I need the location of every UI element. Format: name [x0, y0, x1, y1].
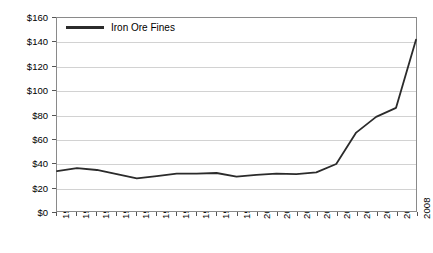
data-series-layer: [57, 18, 416, 211]
y-axis-tick-label: $100: [27, 85, 48, 96]
y-axis-tick-label: $20: [32, 182, 48, 193]
x-axis-tick-mark: [357, 212, 358, 216]
y-axis-tick-label: $0: [37, 207, 48, 218]
y-axis-tick-label: $40: [32, 158, 48, 169]
x-axis-tick-mark: [377, 212, 378, 216]
y-axis-tick-label: $140: [27, 36, 48, 47]
series-line-iron-ore-fines: [57, 40, 416, 179]
x-axis-tick-mark: [216, 212, 217, 216]
legend-swatch-iron-ore-fines: [66, 26, 104, 29]
chart-legend: Iron Ore Fines: [66, 22, 175, 33]
x-axis-tick-mark: [417, 212, 418, 216]
x-axis-tick-mark: [176, 212, 177, 216]
y-axis-tick-label: $160: [27, 12, 48, 23]
plot-area: [56, 17, 417, 212]
x-axis-tick-mark: [56, 212, 57, 216]
iron-ore-fines-line-chart: US $/Metric Ton $0$20$40$60$80$100$120$1…: [0, 0, 433, 253]
x-axis-tick-mark: [257, 212, 258, 216]
x-axis-tick-mark: [237, 212, 238, 216]
y-axis-tick-label: $80: [32, 109, 48, 120]
x-axis-tick-mark: [297, 212, 298, 216]
x-axis-tick-mark: [196, 212, 197, 216]
legend-label-iron-ore-fines: Iron Ore Fines: [111, 22, 175, 33]
x-axis-tick-mark: [337, 212, 338, 216]
x-axis-tick-mark: [116, 212, 117, 216]
x-axis-tick-mark: [156, 212, 157, 216]
x-axis-tick-mark: [76, 212, 77, 216]
x-axis-tick-mark: [136, 212, 137, 216]
x-axis-tick-mark: [397, 212, 398, 216]
x-axis-tick-label: 2008: [421, 197, 432, 219]
y-axis-tick-label: $120: [27, 60, 48, 71]
x-axis-tick-mark: [317, 212, 318, 216]
x-axis-tick-mark: [96, 212, 97, 216]
x-axis-tick-mark: [277, 212, 278, 216]
y-axis-tick-label: $60: [32, 133, 48, 144]
